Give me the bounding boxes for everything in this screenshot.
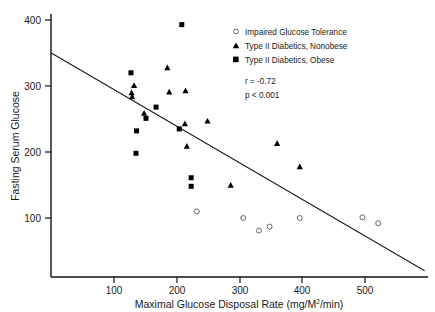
data-point-square <box>144 116 149 121</box>
legend-label: Type II Diabetics, Obese <box>245 56 335 65</box>
y-tick-label: 300 <box>24 81 41 92</box>
data-point-triangle <box>141 110 147 116</box>
data-point-triangle <box>297 163 303 169</box>
data-point-triangle <box>182 121 188 127</box>
data-point-square <box>177 126 182 131</box>
x-axis-tick-labels: 100 200 300 400 500 <box>106 285 374 296</box>
data-point-circle <box>241 216 246 221</box>
data-point-square <box>189 175 194 180</box>
x-axis-title-main: Maximal Glucose Disposal Rate (mg/M <box>135 298 316 310</box>
y-tick-label: 200 <box>24 147 41 158</box>
y-axis-tick-labels: 400 300 200 100 <box>24 15 41 224</box>
data-point-triangle <box>131 82 137 88</box>
x-tick-label: 400 <box>294 285 311 296</box>
x-axis-title: Maximal Glucose Disposal Rate (mg/M2/min… <box>135 298 343 310</box>
x-axis-title-tail: /min) <box>320 298 343 310</box>
data-point-triangle <box>184 143 190 149</box>
legend-item-type-ii-diabetics-obese[interactable]: Type II Diabetics, Obese <box>233 56 335 65</box>
x-axis-ticks <box>114 277 365 283</box>
data-markers-group <box>128 22 380 233</box>
x-tick-label: 100 <box>106 285 123 296</box>
filled-triangle-icon <box>233 43 240 49</box>
correlation-annotation: r = -0.72 <box>245 77 276 86</box>
pvalue-annotation: p < 0.001 <box>245 91 280 100</box>
x-tick-label: 200 <box>169 285 186 296</box>
data-point-triangle <box>164 64 170 70</box>
data-point-triangle <box>228 182 234 188</box>
legend-item-impaired-glucose-tolerance[interactable]: Impaired Glucose Tolerance <box>234 28 348 37</box>
open-circle-icon <box>234 29 239 34</box>
scatter-plot-figure: 400 300 200 100 100 200 300 400 500 Fast… <box>0 0 435 312</box>
data-point-circle <box>297 216 302 221</box>
filled-square-icon <box>233 57 239 63</box>
data-point-square <box>133 151 138 156</box>
legend: Impaired Glucose Tolerance Type II Diabe… <box>233 28 348 65</box>
y-axis-ticks <box>45 20 51 218</box>
data-point-square <box>189 184 194 189</box>
data-point-square <box>134 128 139 133</box>
series-type-ii-diabetics-obese <box>128 22 193 189</box>
x-tick-label: 300 <box>232 285 249 296</box>
data-point-triangle <box>166 89 172 95</box>
data-point-square <box>179 22 184 27</box>
regression-line <box>51 53 424 271</box>
y-axis-title: Fasting Serum Glucose <box>9 91 21 201</box>
data-point-triangle <box>204 118 210 124</box>
data-point-triangle <box>182 88 188 94</box>
series-type-ii-diabetics-nonobese <box>128 64 302 187</box>
data-point-circle <box>194 209 199 214</box>
data-point-circle <box>360 215 365 220</box>
stats-annotations: r = -0.72 p < 0.001 <box>245 77 280 100</box>
legend-item-type-ii-diabetics-nonobese[interactable]: Type II Diabetics, Nonobese <box>233 42 348 51</box>
data-point-circle <box>376 221 381 226</box>
data-point-square <box>154 105 159 110</box>
x-tick-label: 500 <box>357 285 374 296</box>
data-point-triangle <box>274 140 280 146</box>
data-point-square <box>128 70 133 75</box>
legend-label: Type II Diabetics, Nonobese <box>245 42 348 51</box>
y-tick-label: 100 <box>24 213 41 224</box>
chart-canvas: 400 300 200 100 100 200 300 400 500 Fast… <box>0 0 435 312</box>
legend-label: Impaired Glucose Tolerance <box>245 28 347 37</box>
y-tick-label: 400 <box>24 15 41 26</box>
data-point-triangle <box>128 90 134 96</box>
data-point-circle <box>256 228 261 233</box>
data-point-circle <box>267 224 272 229</box>
